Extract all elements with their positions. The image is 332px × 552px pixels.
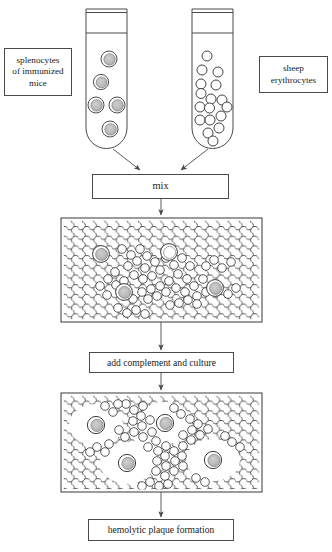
plate-mixed-monolayer [61, 218, 262, 322]
label-box-sheep-erythrocytes: sheep erythrocytes [259, 56, 328, 93]
arrow-splenocyte-to-mix [113, 149, 140, 170]
step-box-mix: mix [92, 174, 229, 199]
step-box-hemolytic-plaque-formation: hemolytic plaque formation [88, 519, 234, 541]
splenocytes-line-1: splenocytes [12, 55, 63, 66]
step-box-add-complement: add complement and culture [89, 352, 234, 373]
splenocytes-line-2: of immunized [12, 66, 63, 77]
arrow-erythrocyte-to-mix [181, 149, 208, 170]
erythrocytes-line-2: erythrocytes [271, 75, 316, 86]
add-complement-label: add complement and culture [90, 357, 233, 369]
erythrocyte-tube [192, 9, 233, 149]
splenocytes-line-3: mice [12, 78, 63, 89]
splenocyte-tube [86, 9, 127, 149]
plate-plaques [61, 393, 262, 492]
hemolytic-label: hemolytic plaque formation [89, 524, 233, 536]
mix-label: mix [93, 180, 228, 193]
label-box-splenocytes: splenocytes of immunized mice [4, 48, 72, 96]
plaque-assay-diagram: splenocytes of immunized mice sheep eryt… [0, 0, 332, 552]
erythrocytes-line-1: sheep [271, 63, 316, 74]
